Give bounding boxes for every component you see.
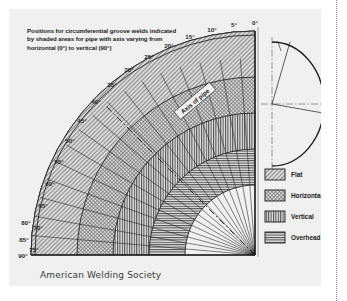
figure-caption: Positions for circumferential groove wel… bbox=[27, 27, 177, 52]
angle-label-60: 60° bbox=[45, 180, 55, 187]
attribution-text: American Welding Society bbox=[40, 270, 161, 280]
legend-item-flat: Flat bbox=[265, 169, 303, 180]
legend-label-vertical: Vertical bbox=[291, 213, 314, 220]
angle-label-10: 10° bbox=[207, 26, 217, 33]
legend-item-horizontal: Horizontal bbox=[265, 190, 321, 201]
angle-label-45: 45° bbox=[77, 117, 87, 124]
legend-swatch-vertical bbox=[265, 211, 285, 222]
figure-panel: Positions for circumferential groove wel… bbox=[9, 9, 321, 286]
angle-label-15: 15° bbox=[185, 33, 195, 40]
pipe-cross-section bbox=[261, 37, 321, 171]
angle-label-55: 55° bbox=[54, 158, 64, 165]
angle-label-65: 65° bbox=[38, 202, 48, 209]
legend: Flat Horizontal Vertical Overhead bbox=[265, 169, 321, 243]
angle-label-75: 75° bbox=[29, 246, 39, 253]
angle-label-35: 35° bbox=[107, 81, 117, 88]
legend-swatch-overhead bbox=[265, 232, 285, 243]
legend-item-vertical: Vertical bbox=[265, 211, 314, 222]
angle-label-25: 25° bbox=[144, 53, 154, 60]
angle-label-80: 80° bbox=[21, 219, 31, 226]
angle-label-50: 50° bbox=[65, 137, 75, 144]
angle-label-40: 40° bbox=[91, 98, 101, 105]
legend-label-overhead: Overhead bbox=[291, 234, 321, 241]
angle-label-5: 5° bbox=[231, 21, 237, 28]
pipe-radial-lower bbox=[272, 104, 321, 113]
legend-swatch-horizontal bbox=[265, 190, 285, 201]
page-cut-line bbox=[336, 0, 337, 301]
legend-swatch-flat bbox=[265, 169, 285, 180]
angle-label-85: 85° bbox=[19, 236, 29, 243]
pipe-radial-upper bbox=[272, 42, 290, 104]
legend-label-horizontal: Horizontal bbox=[291, 192, 321, 199]
legend-label-flat: Flat bbox=[291, 171, 303, 178]
angle-label-30: 30° bbox=[124, 66, 134, 73]
legend-item-overhead: Overhead bbox=[265, 232, 321, 243]
angle-label-0: 0° bbox=[252, 19, 258, 26]
angle-label-90: 90° bbox=[18, 252, 28, 259]
angle-label-70: 70° bbox=[33, 224, 43, 231]
